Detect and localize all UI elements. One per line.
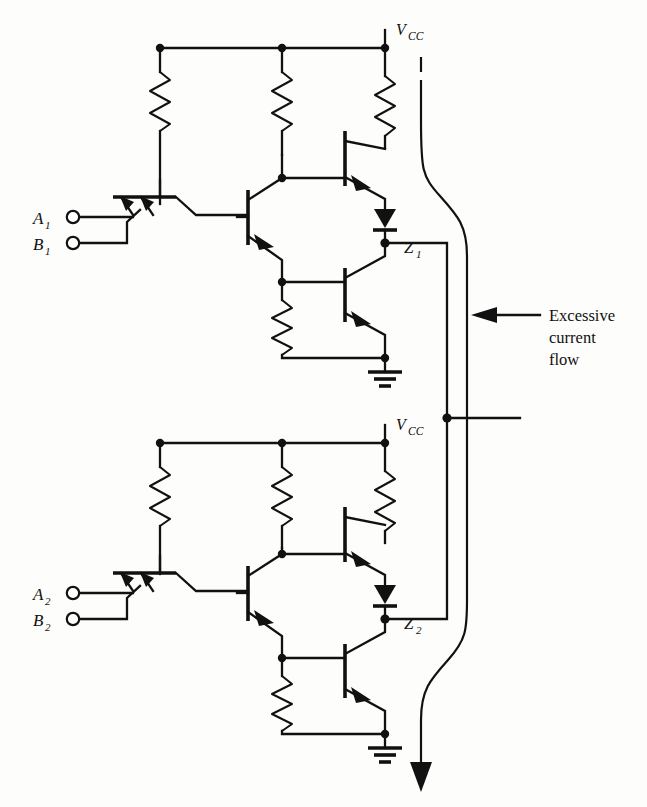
svg-text:Z: Z (404, 238, 414, 257)
svg-text:V: V (396, 416, 408, 433)
svg-text:B: B (33, 235, 44, 254)
gate2-diode-d1 (373, 585, 397, 619)
gate2-input-a2[interactable] (67, 587, 133, 599)
gate2-input-b2-label: B 2 (33, 611, 51, 633)
gate1-transistor-q1-multiemitter (113, 180, 248, 215)
gate2-resistor-r4 (272, 658, 385, 734)
input-terminal-circle[interactable] (67, 237, 79, 249)
svg-text:2: 2 (45, 595, 51, 607)
svg-text:1: 1 (45, 219, 51, 231)
input-terminal-circle[interactable] (67, 587, 79, 599)
gate1-resistor-r3 (375, 48, 395, 148)
svg-text:V: V (396, 21, 408, 38)
input-terminal-circle[interactable] (67, 613, 79, 625)
diode-triangle (374, 585, 396, 604)
svg-text:B: B (33, 611, 44, 630)
gate1-transistor-q3-upper-output (345, 131, 385, 209)
gate2-output-bus-wire (385, 418, 447, 619)
circuit-diagram: V CC A 1 B 1 Z 1 V CC A 2 B 2 Z 2 Excess… (0, 0, 647, 807)
svg-text:2: 2 (416, 624, 422, 636)
svg-text:Excessive: Excessive (549, 306, 615, 325)
gate1-diode-d1 (373, 209, 397, 243)
gate1-transistor-q2-phasesplitter (237, 155, 345, 282)
annotation-arrow (471, 307, 540, 323)
gate1-input-a1[interactable] (67, 211, 133, 223)
svg-text:A: A (32, 585, 44, 604)
gate1-output-label-z1: Z 1 (404, 238, 422, 260)
gate2-transistor-q2-phasesplitter (237, 548, 345, 658)
svg-text:Z: Z (404, 614, 414, 633)
flow-path-curve (421, 120, 467, 770)
gate2-transistor-q3-upper-output (345, 507, 385, 585)
junction-dot (278, 550, 286, 558)
svg-text:1: 1 (416, 248, 422, 260)
gate1-input-b1-label: B 1 (33, 235, 51, 257)
gate2-output-label-z2: Z 2 (404, 614, 422, 636)
input-terminal-circle[interactable] (67, 211, 79, 223)
junction-dot (278, 174, 286, 182)
gate1-input-a1-label: A 1 (32, 209, 51, 231)
gate2-input-a2-label: A 2 (32, 585, 51, 607)
svg-text:CC: CC (408, 30, 424, 42)
gate1-vcc-label: V CC (396, 21, 424, 42)
gate1-output-bus-wire (385, 243, 447, 418)
gate1-transistor-q4-lower-output (278, 243, 385, 358)
gate2-transistor-q4-lower-output (278, 619, 385, 734)
gate1-resistor-r4 (272, 282, 385, 358)
svg-text:A: A (32, 209, 44, 228)
gate-1-group (67, 30, 447, 418)
gate2-resistor-r2 (272, 443, 292, 548)
svg-text:1: 1 (45, 245, 51, 257)
left-arrow-icon (471, 307, 497, 323)
svg-text:flow: flow (549, 350, 579, 369)
figure-canvas: V CC A 1 B 1 Z 1 V CC A 2 B 2 Z 2 Excess… (0, 0, 647, 807)
svg-text:2: 2 (45, 621, 51, 633)
annotation-text: Excessive current flow (549, 306, 615, 369)
svg-text:current: current (549, 328, 596, 347)
current-flow-arrow-icon (410, 762, 432, 792)
gate2-transistor-q1-multiemitter (113, 556, 248, 591)
gate1-resistor-r2 (272, 48, 292, 155)
svg-text:CC: CC (408, 425, 424, 437)
diode-triangle (374, 209, 396, 228)
gate2-resistor-r3 (375, 443, 395, 543)
gate2-resistor-r1 (150, 443, 170, 574)
gate-2-group (67, 413, 520, 762)
gate2-vcc-label: V CC (396, 416, 424, 437)
